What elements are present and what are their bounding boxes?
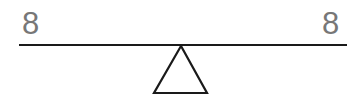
fulcrum-triangle-icon bbox=[154, 46, 207, 93]
balance-graphic bbox=[0, 0, 362, 99]
seesaw-diagram: 8 8 bbox=[0, 0, 362, 99]
